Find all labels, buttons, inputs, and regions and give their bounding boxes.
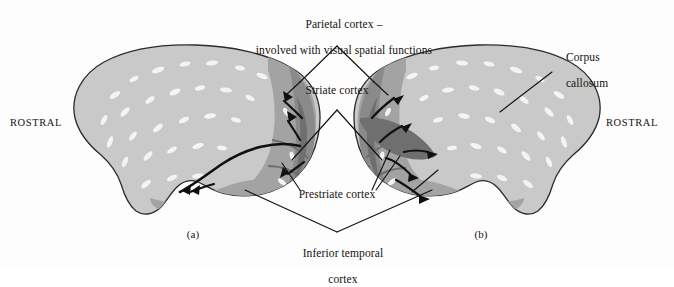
label-rostral-left: ROSTRAL xyxy=(10,116,74,129)
label-corpus-callosum: Corpus callosum xyxy=(554,38,634,103)
label-parietal-line1: Parietal cortex – xyxy=(305,18,382,30)
label-prestriate-cortex: Prestriate cortex xyxy=(281,188,393,201)
label-striate-cortex: Striate cortex xyxy=(287,84,387,97)
label-rostral-right: ROSTRAL xyxy=(606,116,670,129)
label-parietal-line2: involved with visual spatial functions xyxy=(256,44,432,56)
label-inftemp-line1: Inferior temporal xyxy=(303,247,384,259)
label-corpus-line1: Corpus xyxy=(566,51,600,63)
caption-panel-a: (a) xyxy=(178,228,208,241)
label-parietal-cortex: Parietal cortex – involved with visual s… xyxy=(236,5,440,70)
brain-a-inferior-temporal-arrow xyxy=(190,184,214,195)
label-inferior-temporal-cortex: Inferior temporal cortex xyxy=(275,234,399,287)
label-inftemp-line2: cortex xyxy=(328,273,357,285)
caption-panel-b: (b) xyxy=(466,228,496,241)
label-corpus-line2: callosum xyxy=(566,77,608,89)
